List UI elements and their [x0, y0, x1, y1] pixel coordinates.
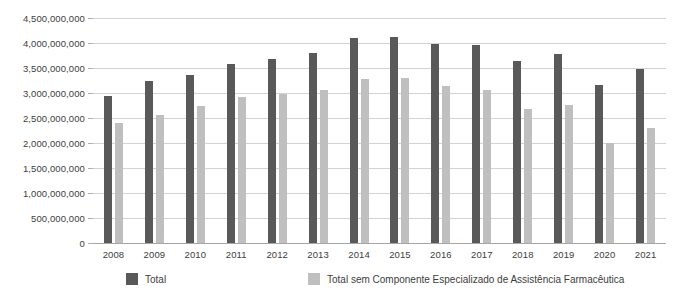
y-axis-label: 4,000,000,000: [23, 38, 85, 49]
bar-group: [134, 18, 175, 243]
y-axis-label: 4,500,000,000: [23, 13, 85, 24]
bar-sem-componente-2015[interactable]: [401, 78, 409, 243]
bar-sem-componente-2008[interactable]: [115, 123, 123, 243]
legend-swatch-sem-componente-icon: [308, 273, 320, 285]
bar-total-2014[interactable]: [350, 38, 358, 243]
bar-sem-componente-2013[interactable]: [320, 90, 328, 243]
x-axis-label-2009: 2009: [144, 249, 166, 260]
x-axis-label-2014: 2014: [348, 249, 370, 260]
y-axis-label: 1,500,000,000: [23, 163, 85, 174]
x-axis-label-2015: 2015: [389, 249, 411, 260]
bar-group: [461, 18, 502, 243]
x-axis-label-2008: 2008: [103, 249, 125, 260]
bar-total-2012[interactable]: [268, 59, 276, 244]
bar-total-2020[interactable]: [595, 85, 603, 244]
bar-sem-componente-2019[interactable]: [565, 105, 573, 243]
bar-group: [420, 18, 461, 243]
bar-total-2016[interactable]: [431, 44, 439, 244]
x-axis-label-2013: 2013: [307, 249, 329, 260]
bar-sem-componente-2012[interactable]: [279, 94, 287, 243]
bar-chart: 4,500,000,0004,000,000,0003,500,000,0003…: [0, 0, 686, 299]
y-axis-label: 1,000,000,000: [23, 188, 85, 199]
bar-sem-componente-2011[interactable]: [238, 97, 246, 244]
bar-group: [93, 18, 134, 243]
y-axis-label: 3,000,000,000: [23, 88, 85, 99]
bar-group: [298, 18, 339, 243]
bar-total-2008[interactable]: [104, 96, 112, 243]
legend-swatch-total-icon: [126, 273, 138, 285]
y-axis-label: 0: [80, 238, 85, 249]
bar-group: [380, 18, 421, 243]
legend-label-sem-componente: Total sem Componente Especializado de As…: [327, 274, 624, 285]
bar-sem-componente-2017[interactable]: [483, 90, 491, 243]
x-axis-label-2020: 2020: [594, 249, 616, 260]
bar-sem-componente-2021[interactable]: [647, 128, 655, 243]
plot-area: 4,500,000,0004,000,000,0003,500,000,0003…: [93, 18, 666, 243]
bar-total-2011[interactable]: [227, 64, 235, 243]
bar-total-2013[interactable]: [309, 53, 317, 243]
bar-sem-componente-2014[interactable]: [361, 79, 369, 243]
chart-legend: Total Total sem Componente Especializado…: [0, 272, 686, 292]
legend-label-total: Total: [145, 274, 166, 285]
x-axis-label-2011: 2011: [226, 249, 247, 260]
bar-total-2009[interactable]: [145, 81, 153, 244]
bar-total-2018[interactable]: [513, 61, 521, 243]
x-axis-label-2017: 2017: [471, 249, 493, 260]
x-axis-label-2021: 2021: [635, 249, 657, 260]
bar-total-2019[interactable]: [554, 54, 562, 243]
bar-sem-componente-2016[interactable]: [442, 86, 450, 244]
bar-group: [543, 18, 584, 243]
gridline: [93, 243, 666, 244]
bar-sem-componente-2018[interactable]: [524, 109, 532, 243]
bar-sem-componente-2020[interactable]: [606, 143, 614, 244]
y-axis-label: 500,000,000: [31, 213, 85, 224]
legend-item-total[interactable]: Total: [126, 272, 166, 286]
x-axis-label-2018: 2018: [512, 249, 534, 260]
bar-group: [502, 18, 543, 243]
bar-group: [257, 18, 298, 243]
bar-group: [339, 18, 380, 243]
x-axis-label-2019: 2019: [553, 249, 575, 260]
legend-item-sem-componente[interactable]: Total sem Componente Especializado de As…: [308, 272, 624, 286]
bar-total-2015[interactable]: [390, 37, 398, 243]
y-axis-label: 3,500,000,000: [23, 63, 85, 74]
bar-group: [625, 18, 666, 243]
bar-group: [584, 18, 625, 243]
bar-group: [175, 18, 216, 243]
x-axis-label-2012: 2012: [266, 249, 288, 260]
bar-sem-componente-2010[interactable]: [197, 106, 205, 243]
x-axis-label-2016: 2016: [430, 249, 452, 260]
bar-group: [216, 18, 257, 243]
bar-total-2021[interactable]: [636, 69, 644, 244]
y-axis-tick: [88, 243, 93, 244]
bar-sem-componente-2009[interactable]: [156, 115, 164, 244]
x-axis-label-2010: 2010: [185, 249, 207, 260]
y-axis-label: 2,000,000,000: [23, 138, 85, 149]
bar-total-2017[interactable]: [472, 45, 480, 244]
bar-total-2010[interactable]: [186, 75, 194, 243]
y-axis-label: 2,500,000,000: [23, 113, 85, 124]
